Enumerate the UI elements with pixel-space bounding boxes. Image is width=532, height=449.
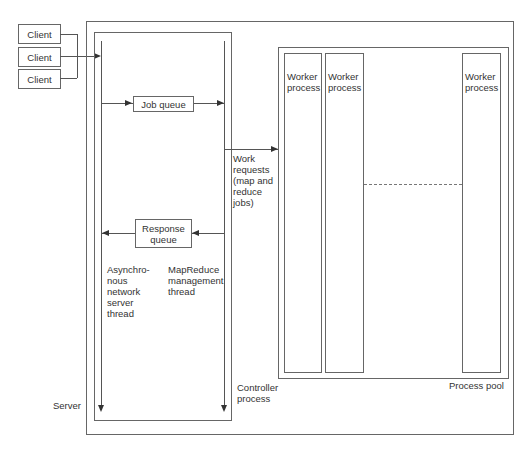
arrowhead-right-icon xyxy=(125,100,132,106)
mapreduce-thread-line xyxy=(224,41,225,408)
worker-label: Worker process xyxy=(328,71,361,93)
worker-process-1: Worker process xyxy=(284,53,322,373)
process-pool-label: Process pool xyxy=(449,380,504,391)
arrowhead-right-icon xyxy=(271,146,278,152)
response-queue-label: Response queue xyxy=(142,223,185,245)
controller-process-label: Controller process xyxy=(237,382,278,404)
job-queue-box: Job queue xyxy=(133,96,194,112)
arrowhead-down-icon xyxy=(98,405,104,412)
async-thread-label: Asynchro- nous network server thread xyxy=(107,264,150,319)
arrowhead-down-icon xyxy=(221,405,227,412)
worker-label: Worker process xyxy=(287,71,320,93)
worker-label: Worker process xyxy=(465,71,498,93)
arrowhead-left-icon xyxy=(192,230,199,236)
client-box-2: Client xyxy=(18,47,61,67)
ellipsis-dashed-line xyxy=(364,184,462,185)
response-queue-box: Response queue xyxy=(135,219,192,248)
client-connector-1 xyxy=(60,34,77,35)
client-label: Client xyxy=(27,52,51,63)
arrowhead-right-icon xyxy=(217,100,224,106)
client-connector-3 xyxy=(60,78,77,79)
arrowhead-left-icon xyxy=(102,230,109,236)
mapreduce-thread-label: MapReduce management thread xyxy=(168,264,223,297)
server-label: Server xyxy=(53,400,81,411)
work-requests-label: Work requests (map and reduce jobs) xyxy=(233,153,273,208)
worker-process-3: Worker process xyxy=(462,53,501,373)
work-requests-arrow xyxy=(224,149,278,150)
job-queue-label: Job queue xyxy=(141,99,185,110)
client-label: Client xyxy=(27,29,51,40)
client-box-3: Client xyxy=(18,69,61,89)
worker-process-2: Worker process xyxy=(325,53,364,373)
client-box-1: Client xyxy=(18,24,61,44)
client-label: Client xyxy=(27,74,51,85)
async-thread-line xyxy=(101,41,102,408)
